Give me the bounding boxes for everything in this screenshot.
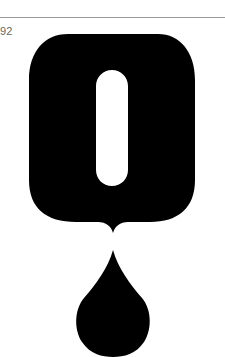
letter-o-shape [29, 34, 195, 233]
drip-o-artwork [0, 0, 225, 357]
drop-icon [76, 250, 150, 357]
